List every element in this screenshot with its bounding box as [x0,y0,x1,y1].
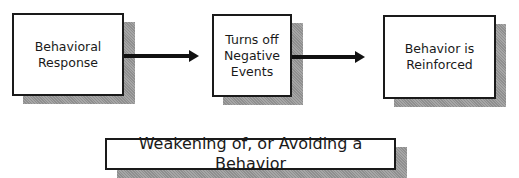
arrow-head-icon [189,50,199,62]
arrow-response-to-negative-events [124,54,190,58]
arrow-negative-events-to-reinforced [292,55,356,59]
behavioral-response-node: Behavioral Response [12,13,124,96]
behavioral-response-label: Behavioral Response [35,39,102,71]
behavior-reinforced-node: Behavior is Reinforced [383,15,496,99]
caption-label: Weakening of, or Avoiding a Behavior [107,134,394,174]
behavior-reinforced-label: Behavior is Reinforced [405,41,474,73]
caption-box: Weakening of, or Avoiding a Behavior [105,138,396,170]
turns-off-negative-events-node: Turns off Negative Events [212,14,292,97]
turns-off-negative-events-label: Turns off Negative Events [224,32,280,80]
arrow-head-icon [355,51,365,63]
